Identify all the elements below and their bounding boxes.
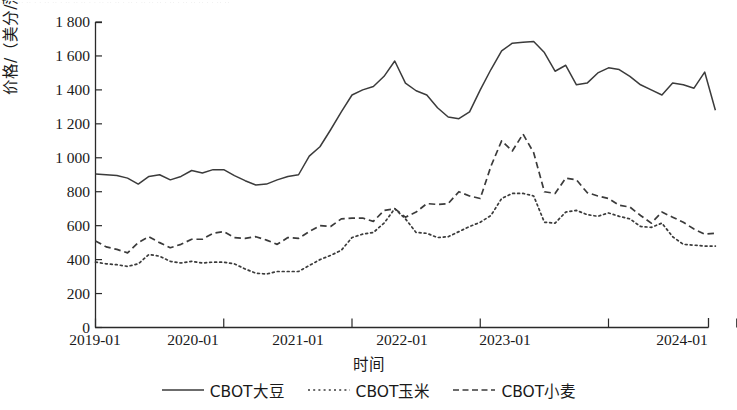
chart-legend: CBOT大豆 CBOT玉米 CBOT小麦	[0, 379, 737, 401]
legend-swatch-dashed-icon	[452, 385, 496, 395]
legend-item-wheat[interactable]: CBOT小麦	[452, 379, 576, 401]
series-line-soybean	[96, 42, 716, 185]
legend-swatch-solid-icon	[161, 385, 205, 395]
x-axis-ticks	[96, 319, 737, 328]
data-series-layer	[96, 42, 716, 275]
legend-item-corn[interactable]: CBOT玉米	[307, 379, 431, 401]
legend-swatch-dotted-icon	[307, 385, 351, 395]
legend-label-soybean: CBOT大豆	[210, 379, 285, 401]
plot-area	[0, 0, 737, 410]
legend-label-wheat: CBOT小麦	[501, 379, 576, 401]
legend-label-corn: CBOT玉米	[356, 379, 431, 401]
series-line-wheat	[96, 134, 716, 253]
chart-figure: · ·· · ·· ·· · · ·· ·· · ·· ·· ·· · · ··…	[0, 0, 737, 410]
legend-item-soybean[interactable]: CBOT大豆	[161, 379, 285, 401]
x-axis-title: 时间	[0, 352, 737, 374]
axis-lines	[95, 22, 709, 328]
